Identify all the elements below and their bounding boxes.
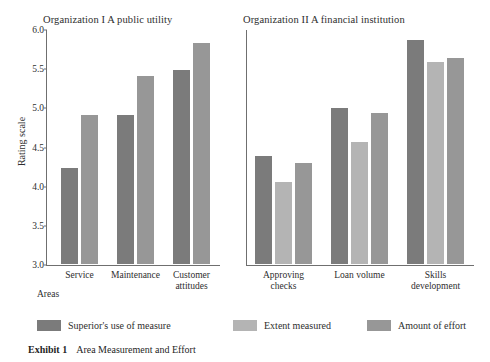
y-axis-tickmark-5.0	[44, 108, 47, 109]
y-axis-tickmark-5.5	[44, 69, 47, 70]
bar	[254, 155, 273, 265]
bar-group	[254, 30, 313, 265]
legend-swatch	[367, 320, 391, 331]
y-axis-tickmark-4.5	[44, 147, 47, 148]
bar	[80, 114, 99, 265]
y-axis-tick-5.0: 5.0	[18, 103, 44, 113]
y-axis-tickmark-6.0	[44, 30, 47, 31]
legend-item: Amount of effort	[367, 318, 466, 332]
y-axis-tick-4.0: 4.0	[18, 182, 44, 192]
bar	[446, 57, 465, 265]
bar	[136, 75, 155, 265]
caption-label: Exhibit 1	[28, 344, 67, 355]
x-axis-category-label: Customer attitudes	[158, 270, 226, 292]
legend-label: Superior's use of measure	[68, 320, 171, 331]
bar	[350, 141, 369, 265]
x-axis-category-label: Loan volume	[326, 270, 394, 281]
figure-caption: Exhibit 1Area Measurement and Effort	[28, 344, 196, 355]
y-axis-tickmark-4.0	[44, 186, 47, 187]
bar	[116, 114, 135, 265]
x-axis-label-left: Areas	[37, 289, 59, 299]
bar-group	[330, 30, 389, 265]
chart-plot-organization-1	[46, 30, 220, 265]
y-axis-tick-4.5: 4.5	[18, 143, 44, 153]
bar	[172, 69, 191, 265]
bar	[330, 107, 349, 265]
legend-label: Amount of effort	[398, 320, 466, 331]
y-axis-tickmark-3.5	[44, 225, 47, 226]
chart-plot-organization-2	[246, 30, 474, 265]
y-axis-tick-3.5: 3.5	[18, 221, 44, 231]
y-axis-tick-labels: 3.03.54.04.55.05.56.0	[18, 30, 44, 265]
legend-label: Extent measured	[264, 320, 331, 331]
x-axis-category-label: Approving checks	[250, 270, 318, 292]
y-axis-tick-5.5: 5.5	[18, 64, 44, 74]
bar	[192, 42, 211, 265]
bar	[426, 61, 445, 265]
bar-group	[60, 30, 99, 265]
exhibit-figure: Organization I A public utility Organiza…	[0, 0, 490, 362]
bar-group	[116, 30, 155, 265]
legend-item: Superior's use of measure	[37, 318, 171, 332]
bar	[370, 112, 389, 265]
bar	[60, 167, 79, 265]
legend-swatch	[233, 320, 257, 331]
legend-swatch	[37, 320, 61, 331]
bar	[294, 162, 313, 265]
y-axis-tick-3.0: 3.0	[18, 260, 44, 270]
x-axis-category-label: Skills development	[402, 270, 470, 292]
chart-title-organization-1: Organization I A public utility	[43, 14, 172, 25]
y-axis-tickmark-3.0	[44, 265, 47, 266]
bar-group	[406, 30, 465, 265]
legend-item: Extent measured	[233, 318, 331, 332]
chart-title-organization-2: Organization II A financial institution	[243, 14, 405, 25]
bar	[406, 39, 425, 265]
y-axis-line-right	[246, 30, 247, 265]
caption-text: Area Measurement and Effort	[76, 344, 196, 355]
chart-legend: Superior's use of measureExtent measured…	[37, 318, 457, 334]
bar-group	[172, 30, 211, 265]
bar	[274, 181, 293, 265]
y-axis-tick-6.0: 6.0	[18, 25, 44, 35]
